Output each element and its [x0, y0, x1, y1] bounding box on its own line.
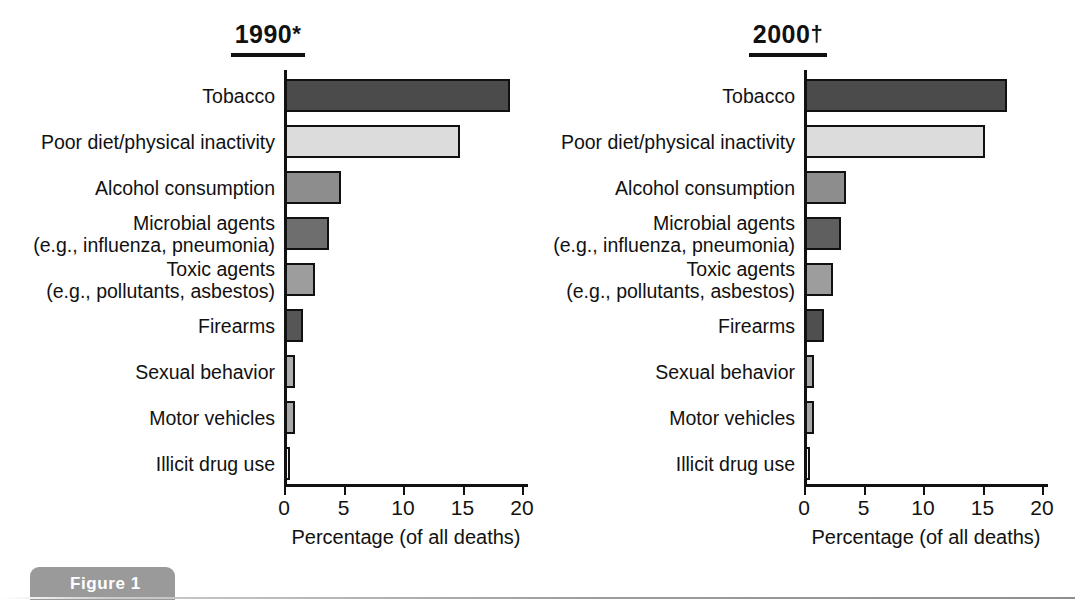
plot-area-2000: TobaccoPoor diet/physical inactivityAlco…: [528, 70, 1048, 494]
category-label: Poor diet/physical inactivity: [8, 131, 284, 153]
category-label: Motor vehicles: [8, 407, 284, 429]
x-axis-tick: [923, 484, 925, 495]
x-axis-line-1990: [284, 484, 528, 487]
bar-row: Poor diet/physical inactivity: [528, 122, 1048, 162]
x-axis-title-1990: Percentage (of all deaths): [284, 526, 528, 549]
bar-row: Microbial agents (e.g., influenza, pneum…: [8, 214, 528, 254]
bar-row: Microbial agents (e.g., influenza, pneum…: [528, 214, 1048, 254]
bar-rows-1990: TobaccoPoor diet/physical inactivityAlco…: [8, 70, 528, 484]
bar-track: [804, 444, 1048, 484]
bar-row: Alcohol consumption: [8, 168, 528, 208]
category-label: Tobacco: [8, 85, 284, 107]
x-axis-tick: [804, 484, 806, 495]
bar-row: Firearms: [8, 306, 528, 346]
bar[interactable]: [804, 217, 841, 250]
category-label: Alcohol consumption: [528, 177, 804, 199]
category-label: Firearms: [8, 315, 284, 337]
bar[interactable]: [804, 309, 824, 342]
panel-title-2000: 2000†: [528, 20, 1048, 57]
bar[interactable]: [284, 263, 315, 296]
bar-track: [284, 76, 528, 116]
x-axis-tick: [403, 484, 405, 495]
x-axis-tick-label: 20: [1030, 496, 1053, 520]
category-label: Tobacco: [528, 85, 804, 107]
bar[interactable]: [804, 79, 1007, 112]
x-axis-tick: [864, 484, 866, 495]
x-axis-tick: [522, 484, 524, 495]
chart-panel-1990: 1990* TobaccoPoor diet/physical inactivi…: [8, 0, 528, 560]
bar-track: [284, 260, 528, 300]
x-axis-tick: [463, 484, 465, 495]
bar-track: [284, 398, 528, 438]
x-axis-tick-label: 5: [858, 496, 870, 520]
bar-row: Tobacco: [528, 76, 1048, 116]
bar[interactable]: [804, 171, 846, 204]
chart-panel-2000: 2000† TobaccoPoor diet/physical inactivi…: [528, 0, 1048, 560]
plot-area-1990: TobaccoPoor diet/physical inactivityAlco…: [8, 70, 528, 494]
panel-title-year: 1990: [235, 20, 293, 48]
panel-title-1990: 1990*: [8, 20, 528, 57]
bar-track: [284, 214, 528, 254]
bar-row: Motor vehicles: [8, 398, 528, 438]
category-label: Poor diet/physical inactivity: [528, 131, 804, 153]
bar-track: [804, 76, 1048, 116]
bar-row: Tobacco: [8, 76, 528, 116]
x-axis-tick-label: 5: [338, 496, 350, 520]
bar-row: Motor vehicles: [528, 398, 1048, 438]
y-axis-line-2000: [804, 70, 807, 484]
x-axis-tick: [344, 484, 346, 495]
bar-row: Firearms: [528, 306, 1048, 346]
bar-track: [804, 122, 1048, 162]
x-axis-tick: [983, 484, 985, 495]
bar-track: [804, 398, 1048, 438]
panel-title-year: 2000: [753, 20, 811, 48]
x-axis-tick-label: 0: [278, 496, 290, 520]
bar-track: [284, 352, 528, 392]
x-axis-tick: [1042, 484, 1044, 495]
figure-container: 1990* TobaccoPoor diet/physical inactivi…: [0, 0, 1075, 603]
x-axis-tick-label: 0: [798, 496, 810, 520]
bar-track: [284, 306, 528, 346]
bar[interactable]: [804, 125, 985, 158]
x-axis-tick-label: 15: [971, 496, 994, 520]
x-axis-tick: [284, 484, 286, 495]
bar-row: Illicit drug use: [8, 444, 528, 484]
bar-track: [804, 260, 1048, 300]
bar-track: [804, 168, 1048, 208]
bar[interactable]: [284, 79, 510, 112]
bar-track: [284, 444, 528, 484]
y-axis-line-1990: [284, 70, 287, 484]
category-label: Toxic agents (e.g., pollutants, asbestos…: [528, 258, 804, 302]
bar-row: Sexual behavior: [8, 352, 528, 392]
x-axis-tick-label: 10: [391, 496, 414, 520]
figure-tag: Figure 1: [30, 567, 175, 600]
x-axis-tick-label: 15: [451, 496, 474, 520]
bar-row: Poor diet/physical inactivity: [8, 122, 528, 162]
figure-footer: Figure 1: [0, 555, 1075, 603]
bar-row: Alcohol consumption: [528, 168, 1048, 208]
x-axis-title-2000: Percentage (of all deaths): [804, 526, 1048, 549]
bar-track: [804, 306, 1048, 346]
category-label: Microbial agents (e.g., influenza, pneum…: [8, 212, 284, 256]
category-label: Microbial agents (e.g., influenza, pneum…: [528, 212, 804, 256]
category-label: Sexual behavior: [8, 361, 284, 383]
bar-track: [804, 214, 1048, 254]
category-label: Toxic agents (e.g., pollutants, asbestos…: [8, 258, 284, 302]
bar-row: Sexual behavior: [528, 352, 1048, 392]
footer-divider: [0, 597, 1075, 599]
bar-track: [804, 352, 1048, 392]
panel-title-footnote-marker: *: [292, 21, 301, 46]
category-label: Motor vehicles: [528, 407, 804, 429]
x-axis-line-2000: [804, 484, 1048, 487]
bar[interactable]: [284, 217, 329, 250]
panel-title-footnote-marker: †: [810, 21, 823, 46]
bar[interactable]: [804, 263, 833, 296]
bar[interactable]: [284, 171, 341, 204]
category-label: Illicit drug use: [528, 453, 804, 475]
category-label: Firearms: [528, 315, 804, 337]
category-label: Sexual behavior: [528, 361, 804, 383]
bar-row: Illicit drug use: [528, 444, 1048, 484]
x-axis-tick-label: 10: [911, 496, 934, 520]
bar-track: [284, 122, 528, 162]
bar[interactable]: [284, 125, 460, 158]
